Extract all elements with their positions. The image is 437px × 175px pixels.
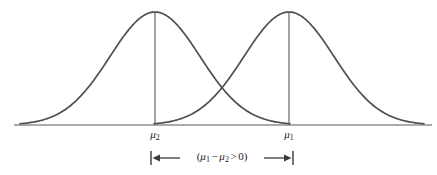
axis-tick-label-mu1: μ1 xyxy=(284,128,294,142)
normal-distributions-figure: μ2 μ1 (μ1−μ2>0) xyxy=(0,0,437,175)
close-paren: ) xyxy=(244,150,248,162)
bracket-left-arrowhead xyxy=(153,155,161,162)
axis-tick-label-mu2: μ2 xyxy=(150,128,160,142)
annotation-sub-second: 2 xyxy=(225,155,229,164)
figure-canvas xyxy=(0,0,437,175)
mu-symbol: μ xyxy=(150,128,156,140)
mu-subscript: 1 xyxy=(290,133,294,142)
difference-annotation-text: (μ1−μ2>0) xyxy=(195,151,250,164)
bracket-right-arrowhead xyxy=(284,155,292,162)
mu-symbol: μ xyxy=(284,128,290,140)
annotation-sub-first: 1 xyxy=(206,155,210,164)
minus-operator: − xyxy=(212,150,218,162)
mu-subscript: 2 xyxy=(156,133,160,142)
comparison-operator: > xyxy=(230,150,236,162)
